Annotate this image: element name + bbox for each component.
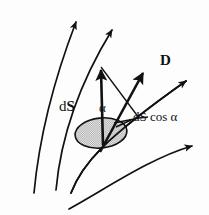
label-ds-vector: dS: [59, 99, 75, 114]
flow-line-4: [69, 146, 192, 209]
label-ds-vector-prefix: d: [59, 98, 67, 114]
surface-ellipse: [74, 115, 129, 150]
label-alpha-angle: α: [99, 101, 106, 114]
label-ds-cos-alpha: dS cos α: [133, 110, 177, 123]
surface-element-patch: [74, 115, 129, 150]
label-ds-vector-symbol: S: [67, 98, 75, 114]
label-d-vector: D: [160, 53, 171, 68]
flux-diagram-figure: dS α D dS cos α: [0, 0, 209, 215]
